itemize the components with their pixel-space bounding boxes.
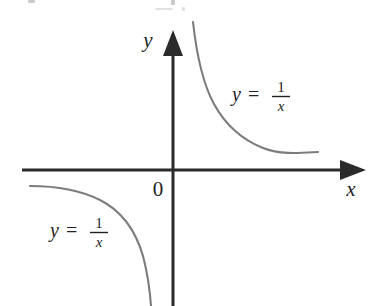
equation-label-right: y = 1 x	[230, 79, 290, 114]
equation-left-denominator: x	[95, 234, 103, 250]
equation-left-numerator: 1	[95, 215, 103, 231]
equation-left-variable: y	[48, 219, 59, 242]
top-edge-text-fragments	[28, 0, 185, 11]
curve-branch-quadrant-3	[30, 186, 151, 306]
origin-label: 0	[153, 177, 164, 201]
equation-right-denominator: x	[277, 98, 285, 114]
x-axis	[22, 160, 366, 180]
y-axis-arrow-icon	[163, 30, 183, 56]
equation-left-equals: =	[66, 219, 77, 241]
x-axis-label: x	[345, 177, 356, 201]
y-axis	[163, 30, 183, 306]
coordinate-plane-svg: y x 0 y = 1 x y = 1 x	[0, 0, 384, 306]
equation-right-numerator: 1	[277, 79, 285, 95]
equation-right-variable: y	[230, 83, 241, 106]
graph-figure: y x 0 y = 1 x y = 1 x	[0, 0, 384, 306]
equation-label-left: y = 1 x	[48, 215, 108, 250]
y-axis-label: y	[141, 28, 153, 52]
equation-right-equals: =	[248, 83, 259, 105]
